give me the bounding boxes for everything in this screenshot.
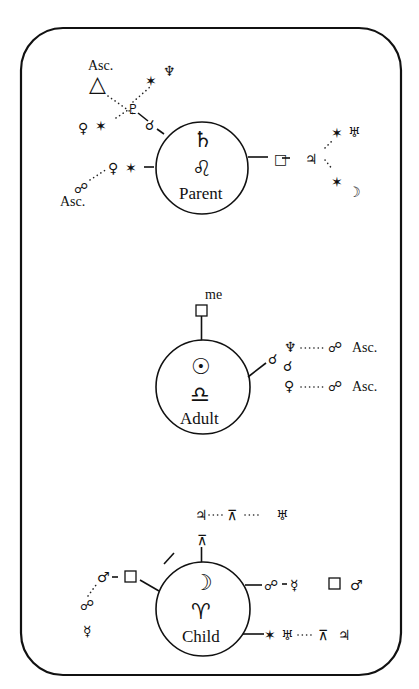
slash-mark: [164, 553, 174, 564]
asc-label: Asc.: [352, 379, 377, 394]
trine-icon: △: [89, 71, 106, 96]
mars-icon: ♂: [97, 569, 110, 585]
me-label: me: [205, 287, 222, 302]
parent-label: Parent: [179, 184, 223, 203]
saturn-icon: ♄: [193, 127, 213, 152]
adult-group: me ☉ ♎ Adult ☌ ☌ ♆ ☍ Asc. ♀ ☍ Asc.: [156, 287, 377, 434]
pluto-icon: ♇: [127, 101, 140, 117]
line-circle-conj: [248, 363, 266, 377]
jupiter-icon: ♃: [338, 627, 351, 643]
aspect-diagram: Asc. △ ✶ ♆ ♇ ♀ ✶ ☌ ☍ Asc. ♀ ✶ ♄ ♌ Parent…: [0, 0, 419, 689]
asc-label: Asc.: [352, 340, 377, 355]
sextile-icon: ✶: [331, 174, 343, 190]
mars-icon: ♂: [350, 577, 363, 593]
square-icon: □: [274, 151, 287, 167]
dotted-line-jupiter-sextile-down: [325, 160, 333, 170]
uranus-icon: ♅: [276, 507, 289, 523]
line-conj-circle: [157, 129, 164, 134]
moon-icon: ☽: [348, 184, 361, 200]
adult-label: Adult: [180, 409, 219, 428]
line-square-circle: [140, 580, 159, 591]
parent-group: Asc. △ ✶ ♆ ♇ ♀ ✶ ☌ ☍ Asc. ♀ ✶ ♄ ♌ Parent…: [60, 58, 361, 214]
child-group: ♃ ⊼ ♅ ⊼ ☽ ♈ Child ♂ ☍ ☿ ☍ ☿ ♂ ✶ ♅ ⊼ ♃: [80, 507, 363, 656]
square-icon: [329, 578, 340, 589]
dotted-line-opp-venus: [90, 169, 107, 180]
moon-icon: ☽: [193, 570, 213, 595]
mercury-icon: ☿: [290, 577, 299, 593]
venus-icon: ♀: [108, 160, 118, 176]
uranus-icon: ♅: [281, 627, 294, 643]
uranus-icon: ♅: [348, 124, 361, 140]
libra-icon: ♎: [190, 382, 210, 407]
dotted-line-jupiter-sextile-up: [325, 140, 333, 148]
leo-icon: ♌: [192, 156, 212, 181]
quincunx-icon: ⊼: [197, 532, 207, 548]
venus-icon: ♀: [78, 120, 88, 136]
child-label: Child: [182, 627, 220, 646]
quincunx-icon: ⊼: [227, 507, 237, 523]
jupiter-icon: ♃: [195, 507, 208, 523]
sextile-icon: ✶: [145, 73, 157, 89]
jupiter-icon: ♃: [305, 151, 318, 167]
dotted-line-pluto-sextile: [133, 87, 150, 102]
square-icon: [196, 305, 207, 316]
quincunx-icon: ⊼: [318, 627, 328, 643]
sextile-icon: ✶: [331, 125, 343, 141]
mercury-icon: ☿: [83, 623, 92, 639]
sextile-icon: ✶: [264, 627, 276, 643]
opposition-icon: ☍: [264, 577, 278, 593]
conjunction-icon: ☌: [145, 117, 154, 133]
aries-icon: ♈: [191, 599, 211, 624]
square-icon: [125, 571, 136, 582]
neptune-icon: ♆: [163, 63, 176, 79]
parent-asc-label-bottom: Asc.: [60, 194, 85, 209]
sun-icon: ☉: [191, 354, 211, 379]
opposition-icon: ☍: [328, 378, 342, 394]
sextile-icon: ✶: [125, 160, 137, 176]
dotted-line-mars-opp: [88, 585, 96, 596]
venus-icon: ♀: [284, 378, 294, 394]
opposition-icon: ☍: [80, 597, 94, 613]
opposition-icon: ☍: [328, 339, 342, 355]
neptune-icon: ♆: [284, 339, 297, 355]
conjunction-icon: ☌: [268, 351, 277, 367]
conjunction-icon: ☌: [283, 358, 292, 374]
sextile-icon: ✶: [95, 118, 107, 134]
